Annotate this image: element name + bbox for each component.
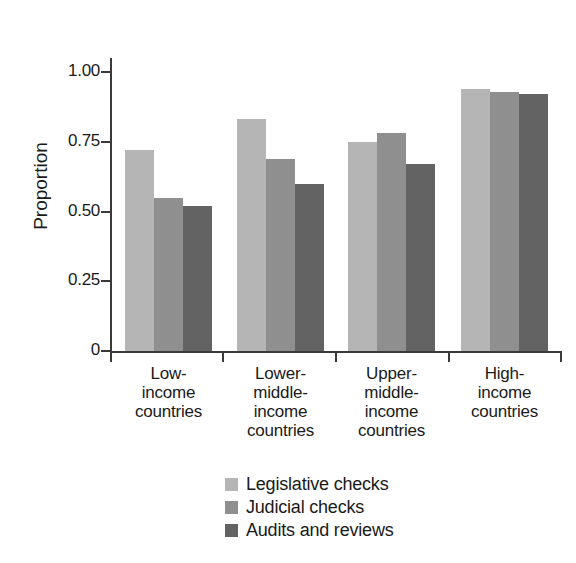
y-axis-tick bbox=[101, 71, 112, 73]
legend-label: Legislative checks bbox=[246, 474, 388, 495]
legend-item: Legislative checks bbox=[225, 473, 393, 496]
x-axis-category-label: High-incomecountries bbox=[435, 364, 575, 421]
bar bbox=[519, 94, 548, 351]
y-axis-title: Proportion bbox=[30, 101, 52, 271]
chart-legend: Legislative checksJudicial checksAudits … bbox=[225, 473, 393, 542]
bar bbox=[348, 142, 377, 351]
bar bbox=[237, 119, 266, 351]
bar bbox=[125, 150, 154, 351]
category-label-line: income bbox=[435, 383, 575, 402]
legend-item: Audits and reviews bbox=[225, 519, 393, 542]
bar bbox=[406, 164, 435, 351]
category-label-line: High- bbox=[435, 364, 575, 383]
legend-swatch-icon bbox=[225, 478, 238, 491]
y-axis-tick bbox=[101, 280, 112, 282]
x-axis-tick bbox=[335, 351, 337, 362]
y-axis-tick-label: 0 bbox=[0, 340, 100, 360]
x-axis-tick bbox=[110, 351, 112, 362]
y-axis-line bbox=[110, 58, 112, 353]
y-axis-tick bbox=[101, 211, 112, 213]
bar bbox=[154, 198, 183, 351]
x-axis-tick bbox=[222, 351, 224, 362]
bar bbox=[183, 206, 212, 351]
x-axis-tick bbox=[560, 351, 562, 362]
bar bbox=[295, 184, 324, 351]
bar bbox=[490, 92, 519, 351]
bar bbox=[461, 89, 490, 351]
y-axis-tick bbox=[101, 141, 112, 143]
legend-label: Audits and reviews bbox=[246, 520, 393, 541]
bar bbox=[266, 159, 295, 352]
bar bbox=[377, 133, 406, 351]
plot-area: 00.250.500.751.00 Proportion Low-incomec… bbox=[0, 0, 576, 563]
y-axis-tick-label: 0.25 bbox=[0, 270, 100, 290]
category-label-line: countries bbox=[322, 421, 462, 440]
legend-label: Judicial checks bbox=[246, 497, 364, 518]
x-axis-tick bbox=[448, 351, 450, 362]
category-label-line: countries bbox=[435, 402, 575, 421]
y-axis-tick-label: 1.00 bbox=[0, 61, 100, 81]
legend-swatch-icon bbox=[225, 524, 238, 537]
legend-swatch-icon bbox=[225, 501, 238, 514]
legend-item: Judicial checks bbox=[225, 496, 393, 519]
bar-chart: 00.250.500.751.00 Proportion Low-incomec… bbox=[0, 0, 576, 563]
